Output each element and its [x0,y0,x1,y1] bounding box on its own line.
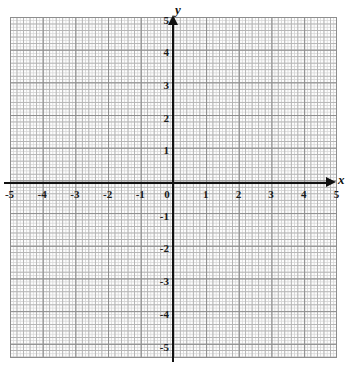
x-axis-arrow-icon [326,177,336,187]
x-tick-label: 3 [268,189,274,200]
y-tick-label: -1 [153,210,169,221]
y-axis-line [172,24,174,362]
y-tick-label: 1 [153,145,169,156]
x-tick-label: -5 [5,189,14,200]
y-tick-label: -5 [153,341,169,352]
y-axis-label: y [175,2,181,18]
coordinate-plane-graph: x y -5-4-3-2-1012345 54321-1-2-3-4-5 [0,0,351,366]
y-tick-label: 2 [153,112,169,123]
x-tick-label: 0 [164,189,170,200]
x-tick-label: 2 [236,189,242,200]
y-tick-label: -4 [153,308,169,319]
x-tick-label: -3 [70,189,79,200]
x-tick-label: -1 [136,189,145,200]
y-tick-label: 4 [153,47,169,58]
y-tick-label: 5 [153,14,169,25]
y-tick-label: -2 [153,243,169,254]
x-axis-line [4,182,329,184]
y-tick-label: -3 [153,276,169,287]
x-tick-label: -2 [103,189,112,200]
x-tick-label: 4 [301,189,307,200]
y-tick-label: 3 [153,79,169,90]
x-tick-label: 5 [334,189,340,200]
x-axis-label: x [338,172,345,188]
x-tick-label: 1 [203,189,209,200]
x-tick-label: -4 [38,189,47,200]
